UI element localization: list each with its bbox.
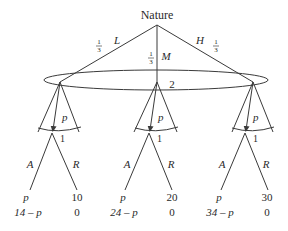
prob-L: 1 3: [96, 38, 102, 54]
accept-label: A: [26, 158, 34, 170]
responder-label: 1: [157, 133, 162, 144]
reject-label: R: [262, 158, 270, 170]
responder-label: 1: [253, 133, 258, 144]
subtree-L: p 1 A R p 14 – p 10 0: [14, 82, 83, 218]
nature-branches: [60, 25, 253, 82]
game-tree: Nature 1 3 L 1 3 M H 1 3 2 p 1 A R p: [0, 0, 288, 231]
accept-payoff-2: 14 – p: [14, 206, 42, 218]
accept-payoff-2: 34 – p: [205, 206, 234, 218]
svg-text:1: 1: [149, 50, 153, 58]
svg-text:1: 1: [97, 38, 101, 46]
svg-text:3: 3: [97, 46, 101, 54]
prob-H: 1 3: [213, 38, 219, 54]
action-M: M: [160, 50, 171, 62]
reject-label: R: [72, 158, 80, 170]
reject-payoff-1: 10: [72, 191, 84, 203]
offer-label: p: [252, 111, 259, 123]
accept-payoff-1: p: [119, 191, 126, 203]
accept-label: A: [123, 158, 131, 170]
subtree-H: p 1 A R p 34 – p 30 0: [205, 82, 274, 218]
reject-payoff-2: 0: [74, 206, 80, 218]
reject-payoff-1: 30: [262, 191, 274, 203]
accept-payoff-2: 24 – p: [110, 206, 138, 218]
action-L: L: [113, 34, 120, 46]
svg-text:1: 1: [214, 38, 218, 46]
responder-label: 1: [60, 133, 65, 144]
subtree-M: p 1 A R p 24 – p 20 0: [110, 82, 178, 218]
offer-label: p: [61, 111, 68, 123]
accept-payoff-1: p: [215, 191, 222, 203]
info-set-player: 2: [169, 78, 175, 90]
svg-text:3: 3: [149, 58, 153, 66]
action-H: H: [195, 34, 205, 46]
reject-label: R: [167, 158, 175, 170]
svg-text:3: 3: [214, 46, 218, 54]
nature-label: Nature: [141, 8, 174, 22]
prob-M: 1 3: [148, 50, 154, 66]
accept-label: A: [218, 158, 226, 170]
reject-payoff-2: 0: [169, 206, 175, 218]
reject-payoff-2: 0: [264, 206, 270, 218]
offer-label: p: [157, 111, 164, 123]
reject-payoff-1: 20: [167, 191, 179, 203]
accept-payoff-1: p: [22, 191, 29, 203]
